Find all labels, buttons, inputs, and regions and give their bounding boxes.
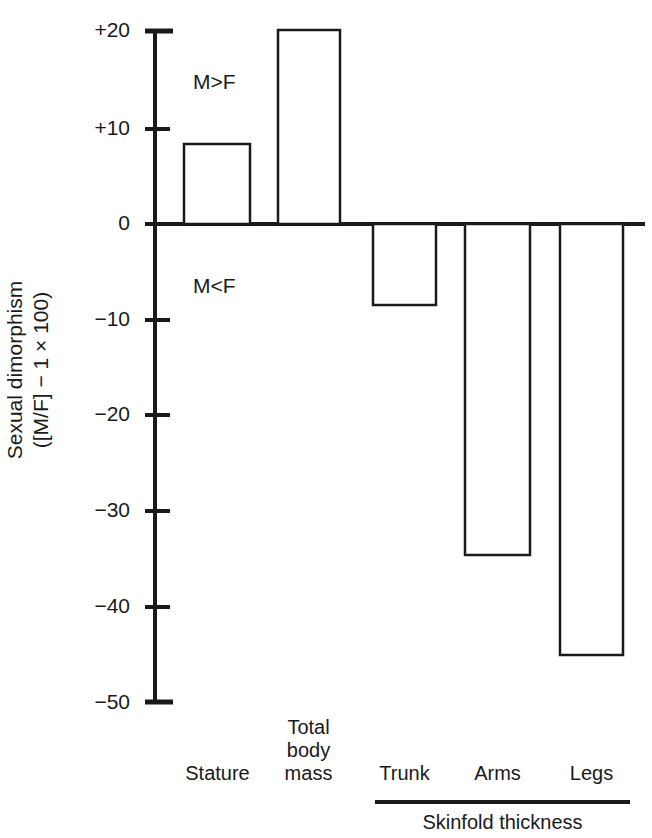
annotation-male-less: M<F [193, 275, 236, 296]
y-tick-label-20: +20 [35, 19, 130, 40]
y-tick-label-neg40: −40 [35, 595, 130, 616]
y-tick-label-10: +10 [35, 117, 130, 138]
category-label-total-body-mass-line2: body [256, 739, 361, 762]
category-label-trunk: Trunk [352, 762, 457, 785]
category-label-legs: Legs [539, 762, 644, 785]
y-axis-title: Sexual dimorphism ([M/F] − 1 × 100) [2, 220, 62, 520]
y-axis-title-line1: Sexual dimorphism [2, 220, 28, 520]
y-axis-title-line2: ([M/F] − 1 × 100) [28, 220, 54, 520]
bar-total-body-mass [278, 30, 340, 224]
annotation-male-greater: M>F [193, 71, 236, 92]
bar-trunk [373, 224, 436, 305]
bar-stature [184, 144, 250, 224]
bar-legs [560, 224, 623, 655]
chart-figure: +20 +10 0 −10 −20 −30 −40 −50 Sexual dim… [0, 0, 652, 838]
category-label-total-body-mass-line3: mass [256, 762, 361, 785]
group-label-skinfold-thickness: Skinfold thickness [375, 812, 630, 832]
category-label-total-body-mass-line1: Total [256, 716, 361, 739]
bar-arms [465, 224, 530, 555]
category-label-arms: Arms [445, 762, 550, 785]
y-tick-label-neg50: −50 [35, 691, 130, 712]
